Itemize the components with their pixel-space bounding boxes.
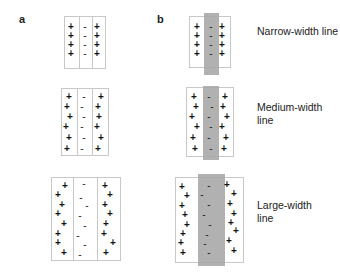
positive-charge-symbol: + (67, 49, 75, 59)
column-divider (97, 178, 98, 260)
positive-charge-symbol: + (93, 122, 101, 132)
caption-large: Large-width line (257, 199, 312, 225)
caption-narrow: Narrow-width line (257, 25, 338, 38)
panel-label-b: b (157, 13, 164, 25)
positive-charge-symbol: + (61, 181, 69, 191)
positive-charge-symbol: + (220, 144, 228, 154)
negative-charge-symbol: - (205, 248, 213, 258)
positive-charge-symbol: + (93, 49, 101, 59)
positive-charge-symbol: + (218, 122, 226, 132)
negative-charge-symbol: - (200, 210, 208, 220)
positive-charge-symbol: + (60, 219, 68, 229)
negative-charge-symbol: - (78, 144, 86, 154)
positive-charge-symbol: + (97, 133, 105, 143)
positive-charge-symbol: + (62, 122, 70, 132)
positive-charge-symbol: + (232, 226, 240, 236)
positive-charge-symbol: + (179, 248, 187, 258)
positive-charge-symbol: + (222, 133, 230, 143)
negative-charge-symbol: - (207, 122, 215, 132)
negative-charge-symbol: - (83, 201, 91, 211)
positive-charge-symbol: + (63, 144, 71, 154)
negative-charge-symbol: - (81, 221, 89, 231)
negative-charge-symbol: - (76, 250, 84, 260)
negative-charge-symbol: - (80, 133, 88, 143)
positive-charge-symbol: + (100, 229, 108, 239)
negative-charge-symbol: - (207, 144, 215, 154)
negative-charge-symbol: - (81, 49, 89, 59)
negative-charge-symbol: - (198, 190, 206, 200)
column-divider (73, 178, 74, 260)
negative-charge-symbol: - (205, 200, 213, 210)
caption-medium: Medium-width line (257, 101, 322, 127)
positive-charge-symbol: + (102, 248, 110, 258)
positive-charge-symbol: + (193, 122, 201, 132)
negative-charge-symbol: - (207, 49, 215, 59)
negative-charge-symbol: - (81, 240, 89, 250)
positive-charge-symbol: + (94, 144, 102, 154)
negative-charge-symbol: - (205, 181, 213, 191)
positive-charge-symbol: + (60, 248, 68, 258)
panel-label-a: a (19, 13, 25, 25)
column-divider (79, 17, 80, 68)
negative-charge-symbol: - (78, 122, 86, 132)
positive-charge-symbol: + (65, 133, 73, 143)
positive-charge-symbol: + (218, 49, 226, 59)
positive-charge-symbol: + (109, 238, 117, 248)
positive-charge-symbol: + (230, 246, 238, 256)
negative-charge-symbol: - (205, 133, 213, 143)
negative-charge-symbol: - (80, 179, 88, 189)
positive-charge-symbol: + (193, 49, 201, 59)
positive-charge-symbol: + (189, 133, 197, 143)
positive-charge-symbol: + (191, 144, 199, 154)
